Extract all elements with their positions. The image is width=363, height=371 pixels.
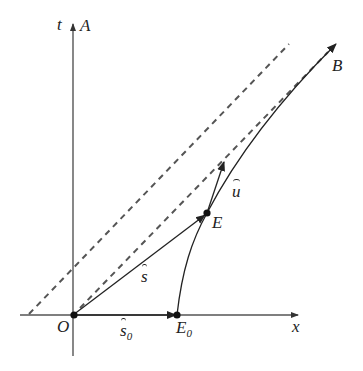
point-B-label: B: [332, 57, 342, 74]
light-cone-dashed-1: [29, 44, 289, 314]
s-hat-glyph: s: [141, 268, 148, 285]
u-hat-label: u: [232, 183, 241, 200]
s0-hat-glyph: s: [120, 322, 127, 339]
s0-hat-label: s0: [120, 322, 132, 342]
point-E0-label: E0: [176, 319, 192, 339]
worldline-B: [207, 44, 336, 213]
point-O: [70, 311, 77, 318]
s-hat-vector: [73, 215, 205, 315]
point-E-label: E: [212, 214, 222, 231]
s0-subscript: 0: [127, 330, 133, 342]
E0-base: E: [176, 318, 186, 337]
u-hat-glyph: u: [232, 183, 241, 200]
curve-E0-to-E: [177, 213, 207, 315]
spacetime-diagram: t A x B O E E0 s s0 u: [0, 0, 363, 371]
s-hat-label: s: [141, 268, 148, 285]
worldline-A-label: A: [80, 17, 90, 34]
point-E: [203, 209, 210, 216]
point-O-label: O: [57, 318, 69, 335]
diagram-canvas: [0, 0, 363, 371]
t-axis-label: t: [57, 16, 62, 33]
light-cone-dashed-2: [80, 52, 328, 308]
E0-subscript: 0: [186, 327, 192, 339]
x-axis-label: x: [292, 318, 300, 335]
